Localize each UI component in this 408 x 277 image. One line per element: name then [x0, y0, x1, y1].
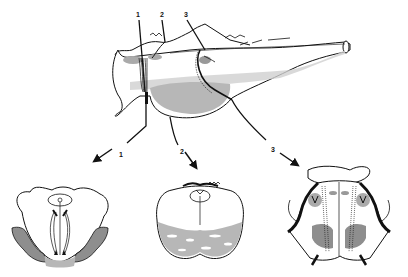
cross-section-1	[12, 187, 108, 268]
cross-section-2	[157, 182, 244, 259]
diagram-canvas	[0, 0, 408, 277]
top-label-3: 3	[184, 11, 188, 18]
section-label-1: 1	[119, 151, 123, 158]
arrow-3	[280, 153, 296, 164]
arrow-2	[185, 152, 195, 166]
top-label-2: 2	[160, 11, 164, 18]
cross-section-3	[288, 166, 390, 265]
section-label-3: 3	[271, 146, 275, 153]
lateral-view	[113, 20, 350, 145]
section-label-2: 2	[180, 148, 184, 155]
top-label-1: 1	[136, 11, 140, 18]
arrow-1	[96, 149, 112, 160]
